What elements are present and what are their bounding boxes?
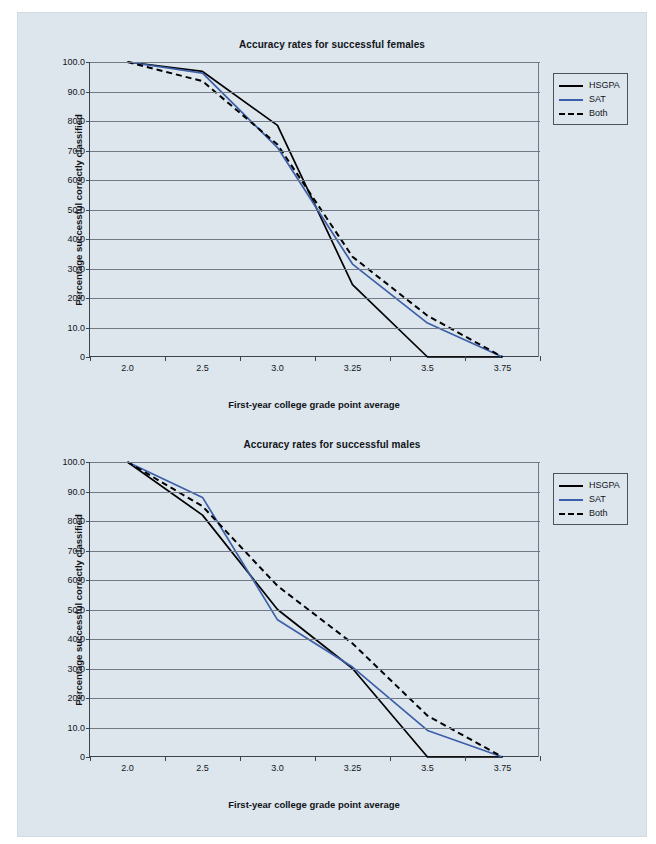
y-axis-tick-label: 90.0: [67, 487, 85, 497]
x-axis-tick: [165, 756, 166, 761]
x-axis-tick: [390, 756, 391, 761]
gridline: [90, 462, 540, 463]
x-axis-title-males: First-year college grade point average: [89, 799, 539, 810]
y-axis-tick-label: 0: [80, 352, 85, 362]
figure-sheet: Accuracy rates for successful females Pe…: [18, 13, 646, 836]
y-axis-tick-label: 80.0: [67, 516, 85, 526]
legend-swatch-sat-icon: [559, 94, 583, 104]
y-axis-tick-label: 60.0: [67, 175, 85, 185]
y-axis-tick: [86, 298, 90, 299]
y-axis-tick: [86, 728, 90, 729]
legend-item-sat: SAT: [559, 92, 620, 106]
gridline: [90, 239, 540, 240]
gridline: [90, 298, 540, 299]
legend-label-sat: SAT: [589, 494, 606, 504]
x-axis-tick-label: 3.25: [344, 763, 362, 773]
gridline: [90, 180, 540, 181]
y-axis-tick-label: 30.0: [67, 664, 85, 674]
gridline: [90, 328, 540, 329]
y-axis-tick: [86, 239, 90, 240]
x-axis-tick-label: 3.0: [271, 363, 284, 373]
y-axis-tick: [86, 610, 90, 611]
x-axis-tick-label: 3.5: [421, 363, 434, 373]
y-axis-tick: [86, 210, 90, 211]
y-axis-tick-label: 40.0: [67, 634, 85, 644]
legend-label-hsgpa: HSGPA: [589, 80, 620, 90]
x-axis-tick: [315, 356, 316, 361]
y-axis-tick: [86, 639, 90, 640]
gridline: [90, 92, 540, 93]
x-axis-tick-label: 2.5: [196, 363, 209, 373]
chart-accuracy-males: Accuracy rates for successful males Perc…: [18, 427, 646, 827]
x-axis-tick-label: 3.75: [494, 763, 512, 773]
y-axis-tick-label: 70.0: [67, 546, 85, 556]
gridline: [90, 610, 540, 611]
x-axis-tick: [165, 356, 166, 361]
y-axis-tick: [86, 492, 90, 493]
y-axis-tick: [86, 92, 90, 93]
x-axis-tick: [465, 356, 466, 361]
x-axis-tick-label: 2.0: [121, 363, 134, 373]
y-axis-tick-label: 70.0: [67, 146, 85, 156]
y-axis-tick: [86, 580, 90, 581]
gridline: [90, 269, 540, 270]
y-axis-tick: [86, 669, 90, 670]
y-axis-tick-label: 10.0: [67, 723, 85, 733]
x-axis-tick: [240, 356, 241, 361]
x-axis-tick-label: 3.25: [344, 363, 362, 373]
y-axis-tick-label: 20.0: [67, 693, 85, 703]
y-axis-tick: [86, 180, 90, 181]
y-axis-tick-label: 50.0: [67, 605, 85, 615]
y-axis-title-wrap-males: Percentage successful correctly classifi…: [36, 462, 50, 757]
y-axis-tick: [86, 328, 90, 329]
y-axis-tick: [86, 62, 90, 63]
x-axis-tick: [90, 756, 91, 761]
x-axis-tick-label: 3.0: [271, 763, 284, 773]
y-axis-title-wrap-females: Percentage successful correctly classifi…: [36, 62, 50, 357]
y-axis-tick-label: 60.0: [67, 575, 85, 585]
y-axis-tick-label: 100.0: [62, 457, 85, 467]
x-axis-tick-label: 3.5: [421, 763, 434, 773]
legend-label-both: Both: [589, 108, 608, 118]
y-axis-tick-label: 30.0: [67, 264, 85, 274]
y-axis-tick-label: 100.0: [62, 57, 85, 67]
y-axis-tick-label: 10.0: [67, 323, 85, 333]
legend-females: HSGPA SAT Both: [553, 73, 628, 125]
plot-area-females: 100.090.080.070.060.050.040.030.020.010.…: [89, 62, 539, 357]
y-axis-tick: [86, 121, 90, 122]
legend-item-sat: SAT: [559, 492, 620, 506]
y-axis-tick: [86, 269, 90, 270]
legend-item-both: Both: [559, 106, 620, 120]
y-axis-tick: [86, 151, 90, 152]
gridline: [90, 62, 540, 63]
legend-label-sat: SAT: [589, 94, 606, 104]
legend-label-hsgpa: HSGPA: [589, 480, 620, 490]
y-axis-tick-label: 80.0: [67, 116, 85, 126]
legend-item-both: Both: [559, 506, 620, 520]
x-axis-tick: [90, 356, 91, 361]
gridline: [90, 698, 540, 699]
legend-males: HSGPA SAT Both: [553, 473, 628, 525]
x-axis-tick: [390, 356, 391, 361]
gridline: [90, 492, 540, 493]
chart-title-females: Accuracy rates for successful females: [18, 39, 646, 50]
legend-label-both: Both: [589, 508, 608, 518]
y-axis-tick: [86, 551, 90, 552]
chart-title-males: Accuracy rates for successful males: [18, 439, 646, 450]
legend-item-hsgpa: HSGPA: [559, 78, 620, 92]
gridline: [90, 151, 540, 152]
gridline: [90, 551, 540, 552]
gridline: [90, 121, 540, 122]
y-axis-tick: [86, 521, 90, 522]
x-axis-tick: [540, 356, 541, 361]
x-axis-tick: [240, 756, 241, 761]
gridline: [90, 580, 540, 581]
x-axis-tick-label: 2.5: [196, 763, 209, 773]
x-axis-tick: [465, 756, 466, 761]
legend-swatch-both-icon: [559, 108, 583, 118]
x-axis-tick-label: 2.0: [121, 763, 134, 773]
y-axis-tick-label: 0: [80, 752, 85, 762]
plot-right-border: [538, 62, 539, 357]
x-axis-title-females: First-year college grade point average: [89, 399, 539, 410]
scanned-page: Accuracy rates for successful females Pe…: [0, 0, 656, 844]
